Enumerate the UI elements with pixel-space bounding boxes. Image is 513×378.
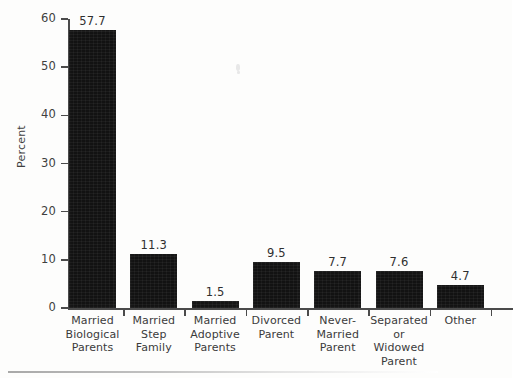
y-axis-tick (61, 115, 68, 117)
bar (130, 254, 177, 308)
category-label-line: or (363, 328, 436, 342)
bar-value-label: 4.7 (425, 269, 496, 283)
bar-value-label: 57.7 (57, 14, 128, 28)
y-axis-tick-label: 0 (30, 300, 56, 314)
bar (314, 271, 361, 308)
y-axis-tick (61, 259, 68, 261)
y-axis-tick-label: 50 (30, 59, 56, 73)
category-label-line: Parents (179, 341, 252, 355)
y-axis-tick (61, 211, 68, 213)
category-label: Other (424, 314, 497, 328)
scan-speck (237, 71, 240, 74)
bar (192, 301, 239, 308)
page-edge-rule (8, 371, 438, 373)
bar-value-label: 7.6 (364, 255, 435, 269)
y-axis-tick (61, 307, 68, 309)
y-axis-title: Percent (15, 117, 28, 177)
bar (69, 30, 116, 308)
y-axis-tick-label: 10 (30, 252, 56, 266)
category-label-line: Other (424, 314, 497, 328)
y-axis-tick-label: 60 (30, 11, 56, 25)
y-axis-tick (61, 163, 68, 165)
bar (437, 285, 484, 308)
scan-speck (236, 64, 240, 71)
y-axis-tick (61, 66, 68, 68)
bar (253, 262, 300, 308)
bar (376, 271, 423, 308)
bar-value-label: 1.5 (180, 285, 251, 299)
x-axis-line (68, 308, 513, 310)
bar-value-label: 11.3 (118, 238, 189, 252)
y-axis-tick-label: 40 (30, 107, 56, 121)
y-axis-tick-label: 30 (30, 156, 56, 170)
category-label-line: Widowed (363, 341, 436, 355)
category-label-line: Parent (363, 355, 436, 369)
y-axis-tick-label: 20 (30, 204, 56, 218)
